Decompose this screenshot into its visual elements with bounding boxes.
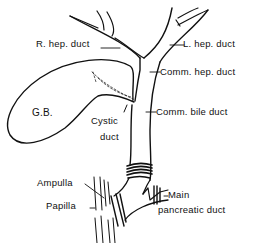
- cystic-duct-line: [124, 105, 127, 112]
- label-l-hep-duct: L. hep. duct: [183, 39, 235, 49]
- label-cystic-duct-line2: duct: [100, 132, 119, 142]
- label-ampulla: Ampulla: [37, 178, 73, 188]
- label-papilla: Papilla: [46, 201, 76, 211]
- pancreatic-duct-upper: [143, 188, 168, 200]
- label-main: Main: [168, 190, 189, 200]
- label-gallbladder: G.B.: [32, 108, 53, 118]
- biliary-anatomy-diagram: R. hep. duct L. hep. duct Comm. hep. duc…: [0, 0, 253, 243]
- label-pancreatic-duct: pancreatic duct: [158, 205, 225, 215]
- duodenal-wall: [94, 177, 126, 243]
- common-duct-left-wall: [135, 58, 140, 101]
- label-comm-bile-duct: Comm. bile duct: [156, 107, 228, 117]
- right-hepatic-duct-outline: [70, 16, 140, 58]
- sphincter-rings: [127, 164, 152, 178]
- left-hepatic-duct-outline: [144, 8, 172, 58]
- label-r-hep-duct: R. hep. duct: [36, 39, 90, 49]
- common-duct-right-wall: [150, 62, 160, 180]
- label-cystic-duct-line1: Cystic: [91, 116, 118, 126]
- label-comm-hep-duct: Comm. hep. duct: [160, 67, 235, 77]
